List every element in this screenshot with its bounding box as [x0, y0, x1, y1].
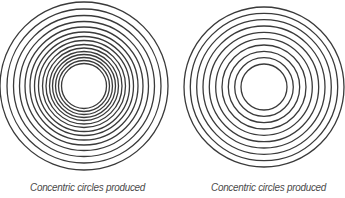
ring-right-4: [203, 26, 325, 148]
ring-right-8: [228, 51, 299, 122]
ring-left-11: [50, 52, 119, 121]
rings-canvas: [0, 0, 345, 198]
caption-right: Concentric circles produced: [211, 182, 326, 194]
concentric-circles-left: [0, 2, 168, 170]
ring-right-3: [197, 20, 332, 155]
ring-right-6: [216, 39, 313, 136]
ring-right-5: [209, 32, 318, 141]
ring-right-10: [241, 64, 287, 110]
ring-right-1: [184, 7, 344, 167]
ring-left-13: [56, 58, 113, 115]
ring-right-2: [190, 13, 337, 160]
concentric-circles-right: [184, 7, 344, 167]
ring-left-10: [46, 48, 122, 124]
ring-right-9: [235, 58, 294, 117]
ring-left-14: [59, 61, 110, 112]
concentric-circles-figure: Concentric circles produced Concentric c…: [0, 0, 345, 198]
ring-left-15: [62, 64, 107, 109]
caption-left: Concentric circles produced: [30, 182, 145, 194]
